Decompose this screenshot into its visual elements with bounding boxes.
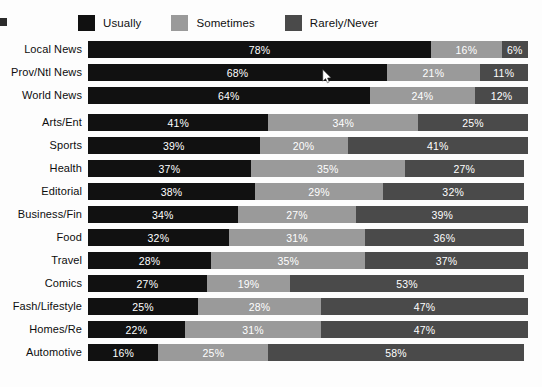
bar-segment-value: 6%	[507, 44, 523, 56]
bar-segment[interactable]: 37%	[88, 160, 251, 177]
chart-row: Health37%35%27%	[0, 160, 542, 177]
bar-segment-value: 64%	[218, 90, 240, 102]
bar-segment[interactable]: 34%	[268, 114, 418, 131]
stacked-bar-chart: UsuallySometimesRarely/Never Local News7…	[0, 0, 542, 387]
bar-segment[interactable]: 20%	[260, 137, 348, 154]
bar-segment[interactable]: 27%	[238, 206, 357, 223]
legend-item[interactable]: Rarely/Never	[285, 15, 378, 31]
chart-row: Arts/Ent41%34%25%	[0, 114, 542, 131]
bar-segment[interactable]: 31%	[185, 321, 321, 338]
bar-segment[interactable]: 64%	[88, 87, 370, 104]
legend-item[interactable]: Usually	[78, 15, 141, 31]
scan-artifact-speck	[0, 18, 7, 26]
bar-segment[interactable]: 6%	[502, 41, 528, 58]
stacked-bar[interactable]: 16%25%58%	[88, 344, 528, 361]
chart-row: Comics27%19%53%	[0, 275, 542, 292]
bar-segment-value: 37%	[436, 255, 458, 267]
chart-row: Prov/Ntl News68%21%11%	[0, 64, 542, 81]
bar-segment[interactable]: 21%	[387, 64, 479, 81]
bar-segment[interactable]: 47%	[321, 321, 528, 338]
bar-segment-value: 31%	[242, 324, 264, 336]
chart-row: Food32%31%36%	[0, 229, 542, 246]
stacked-bar[interactable]: 64%24%12%	[88, 87, 528, 104]
bar-segment-value: 35%	[317, 163, 339, 175]
bar-segment[interactable]: 29%	[255, 183, 383, 200]
stacked-bar[interactable]: 28%35%37%	[88, 252, 528, 269]
bar-segment[interactable]: 35%	[251, 160, 405, 177]
bar-segment-value: 53%	[396, 278, 418, 290]
bar-segment-value: 28%	[139, 255, 161, 267]
bar-segment[interactable]: 78%	[88, 41, 431, 58]
stacked-bar[interactable]: 27%19%53%	[88, 275, 528, 292]
legend-swatch-icon	[78, 15, 95, 31]
chart-row: Local News78%16%6%	[0, 41, 542, 58]
chart-plot-area: Local News78%16%6%Prov/Ntl News68%21%11%…	[0, 41, 542, 367]
bar-segment-value: 31%	[286, 232, 308, 244]
bar-segment[interactable]: 41%	[348, 137, 528, 154]
bar-segment[interactable]: 16%	[431, 41, 501, 58]
bar-segment-value: 41%	[167, 117, 189, 129]
stacked-bar[interactable]: 34%27%39%	[88, 206, 528, 223]
bar-segment[interactable]: 25%	[158, 344, 268, 361]
bar-segment[interactable]: 41%	[88, 114, 268, 131]
bar-segment[interactable]: 27%	[405, 160, 524, 177]
bar-segment-value: 21%	[423, 67, 445, 79]
bar-segment-value: 20%	[293, 140, 315, 152]
chart-row: World News64%24%12%	[0, 87, 542, 104]
bar-segment[interactable]: 34%	[88, 206, 238, 223]
bar-segment[interactable]: 31%	[229, 229, 365, 246]
stacked-bar[interactable]: 22%31%47%	[88, 321, 528, 338]
bar-segment-value: 39%	[431, 209, 453, 221]
legend-label: Sometimes	[196, 17, 254, 29]
chart-legend: UsuallySometimesRarely/Never	[78, 12, 408, 34]
stacked-bar[interactable]: 38%29%32%	[88, 183, 528, 200]
bar-segment[interactable]: 25%	[88, 298, 198, 315]
legend-item[interactable]: Sometimes	[171, 15, 254, 31]
chart-row: Homes/Re22%31%47%	[0, 321, 542, 338]
bar-segment-value: 28%	[249, 301, 271, 313]
stacked-bar[interactable]: 41%34%25%	[88, 114, 528, 131]
bar-segment[interactable]: 25%	[418, 114, 528, 131]
bar-segment[interactable]: 32%	[88, 229, 229, 246]
bar-segment[interactable]: 39%	[88, 137, 260, 154]
stacked-bar[interactable]: 68%21%11%	[88, 64, 528, 81]
chart-row: Sports39%20%41%	[0, 137, 542, 154]
stacked-bar[interactable]: 32%31%36%	[88, 229, 528, 246]
bar-segment[interactable]: 35%	[211, 252, 365, 269]
bar-segment[interactable]: 38%	[88, 183, 255, 200]
bar-segment-value: 36%	[434, 232, 456, 244]
bar-segment[interactable]: 12%	[475, 87, 528, 104]
bar-segment[interactable]: 68%	[88, 64, 387, 81]
bar-segment-value: 58%	[385, 347, 407, 359]
bar-segment[interactable]: 36%	[365, 229, 523, 246]
bar-segment[interactable]: 27%	[88, 275, 207, 292]
bar-segment[interactable]: 37%	[365, 252, 528, 269]
bar-segment-value: 32%	[148, 232, 170, 244]
chart-row: Editorial38%29%32%	[0, 183, 542, 200]
stacked-bar[interactable]: 25%28%47%	[88, 298, 528, 315]
legend-label: Usually	[103, 17, 141, 29]
bar-segment[interactable]: 47%	[321, 298, 528, 315]
category-label: Prov/Ntl News	[0, 64, 82, 81]
bar-segment[interactable]: 19%	[207, 275, 291, 292]
bar-segment-value: 34%	[332, 117, 354, 129]
stacked-bar[interactable]: 39%20%41%	[88, 137, 528, 154]
bar-segment[interactable]: 58%	[268, 344, 523, 361]
bar-segment[interactable]: 11%	[480, 64, 528, 81]
stacked-bar[interactable]: 78%16%6%	[88, 41, 528, 58]
category-label: Sports	[0, 137, 82, 154]
stacked-bar[interactable]: 37%35%27%	[88, 160, 528, 177]
bar-segment-value: 27%	[286, 209, 308, 221]
bar-segment[interactable]: 28%	[198, 298, 321, 315]
bar-segment-value: 25%	[203, 347, 225, 359]
bar-segment[interactable]: 32%	[383, 183, 524, 200]
category-label: Business/Fin	[0, 206, 82, 223]
bar-segment[interactable]: 24%	[370, 87, 476, 104]
bar-segment[interactable]: 16%	[88, 344, 158, 361]
bar-segment[interactable]: 28%	[88, 252, 211, 269]
bar-segment[interactable]: 22%	[88, 321, 185, 338]
bar-segment-value: 39%	[163, 140, 185, 152]
bar-segment-value: 25%	[462, 117, 484, 129]
bar-segment[interactable]: 53%	[290, 275, 523, 292]
bar-segment[interactable]: 39%	[356, 206, 528, 223]
